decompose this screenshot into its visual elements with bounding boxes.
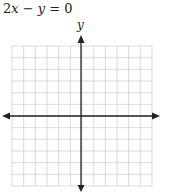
x-axis-right-arrow-icon xyxy=(152,113,160,120)
y-axis-down-arrow-icon xyxy=(78,185,85,192)
y-axis-up-arrow-icon xyxy=(78,35,85,43)
coordinate-grid xyxy=(0,0,170,192)
y-axis xyxy=(78,35,85,192)
x-axis-left-arrow-icon xyxy=(2,113,10,120)
